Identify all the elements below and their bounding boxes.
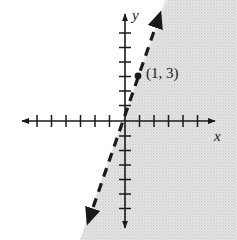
- y-axis-label: y: [132, 8, 139, 23]
- point-coordinate-label: (1, 3): [146, 66, 179, 81]
- x-axis-label: x: [214, 129, 221, 144]
- graph-figure: y x (1, 3): [0, 0, 237, 240]
- plotted-point-marker: [135, 73, 142, 80]
- shaded-region-fill: [80, 0, 237, 240]
- coordinate-plane-svg: [0, 0, 237, 240]
